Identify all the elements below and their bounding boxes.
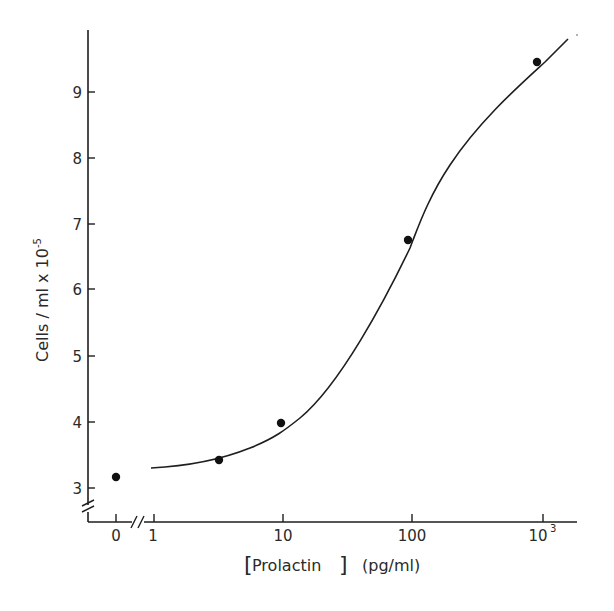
data-point bbox=[215, 456, 223, 464]
chart: 3 4 5 6 7 8 9 0 1 10 100 10 3 Cells / ml… bbox=[0, 0, 614, 611]
svg-text:Cells / ml x 10-5: Cells / ml x 10-5 bbox=[32, 238, 52, 362]
x-tick-label: 1 bbox=[148, 527, 158, 545]
x-tick-label: 10 bbox=[273, 527, 292, 545]
x-tick-label-exponent: 3 bbox=[550, 523, 556, 534]
y-tick-label: 8 bbox=[72, 150, 82, 168]
y-tick-label: 7 bbox=[72, 216, 82, 234]
y-tick-label: 3 bbox=[72, 480, 82, 498]
x-tick-labels: 0 1 10 100 10 3 bbox=[111, 523, 556, 545]
y-axis-label-text: Cells / ml x 10 bbox=[33, 248, 52, 362]
y-tick-label: 9 bbox=[72, 84, 82, 102]
y-axis-label-exponent: -5 bbox=[32, 238, 43, 248]
data-point bbox=[277, 419, 285, 427]
y-tick-label: 6 bbox=[72, 281, 82, 299]
fitted-curve bbox=[151, 39, 568, 468]
y-ticks bbox=[88, 92, 95, 488]
y-tick-labels: 3 4 5 6 7 8 9 bbox=[72, 84, 82, 498]
x-tick-label: 100 bbox=[398, 527, 427, 545]
y-tick-label: 4 bbox=[72, 414, 82, 432]
x-axis-label: [ Prolactin ] (pg/ml) bbox=[244, 552, 420, 577]
y-axis-label: Cells / ml x 10-5 bbox=[32, 238, 52, 362]
data-point bbox=[404, 236, 412, 244]
data-points bbox=[112, 58, 541, 481]
speck-mark bbox=[576, 34, 578, 36]
x-axis-label-units: (pg/ml) bbox=[362, 556, 420, 575]
x-tick-label: 0 bbox=[111, 527, 121, 545]
x-axis-bracket-right: ] bbox=[339, 552, 348, 577]
data-point bbox=[533, 58, 541, 66]
x-ticks bbox=[116, 514, 543, 522]
x-tick-label: 10 bbox=[528, 527, 547, 545]
data-point bbox=[112, 473, 120, 481]
x-axis-break-icon bbox=[131, 516, 144, 528]
y-tick-label: 5 bbox=[72, 348, 82, 366]
x-axis-label-name: Prolactin bbox=[252, 556, 321, 575]
